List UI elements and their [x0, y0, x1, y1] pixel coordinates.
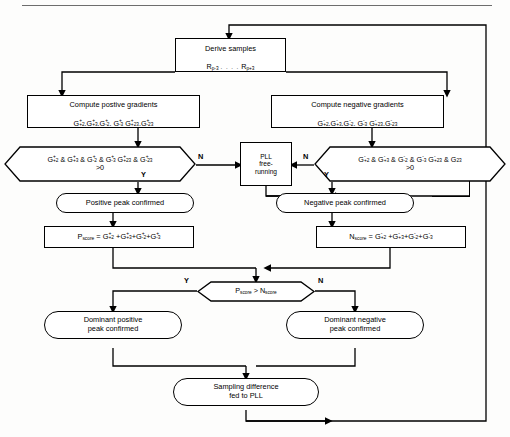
compare-label: Pscore > Nscore: [235, 287, 276, 296]
derive-r-last-sub: p+3: [246, 66, 254, 71]
derive-r-first-sub: p-3: [212, 66, 219, 71]
dominant-negative-text: Dominant negative peak confirmed: [320, 316, 390, 333]
node-sampling-difference[interactable]: Sampling difference fed to PLL: [173, 378, 319, 406]
derive-samples-line2: Rp-3 . . . . Rp+3: [206, 62, 254, 71]
n-score-sub: score: [355, 236, 367, 241]
pll-text: PLL free- running: [251, 153, 281, 176]
node-negative-peak-confirmed[interactable]: Negative peak confirmed: [276, 193, 414, 213]
pll-line3: running: [255, 168, 277, 175]
positive-test-yes-label: Y: [141, 170, 146, 179]
node-p-score[interactable]: Pscore = G++2 +G++3+G+-2+G+-3: [44, 226, 194, 248]
pos-grad-line1: Compute postive gradients: [70, 100, 158, 109]
node-dominant-negative-peak[interactable]: Dominant negative peak confirmed: [286, 311, 424, 339]
compare-no-label: N: [318, 276, 323, 285]
neg-grad-line2: G-+2.G-+3.G--2. G--3 G-+23.G--23: [318, 119, 398, 128]
derive-samples-line1: Derive samples: [205, 44, 256, 53]
sampling-text: Sampling difference fed to PLL: [209, 383, 282, 400]
dominant-positive-line2: peak confirmed: [88, 324, 139, 333]
pos-grad-line2: G++2.G++3.G+-2. G+-3 G++23.G+-23: [74, 119, 154, 128]
compare-p-sub: score: [240, 290, 252, 295]
dominant-positive-text: Dominant positive peak confirmed: [80, 316, 147, 333]
sampling-line2: fed to PLL: [229, 391, 263, 400]
derive-samples-text: Derive samples Rp-3 . . . . Rp+3: [201, 37, 260, 74]
derive-dots: . . . .: [221, 64, 240, 70]
pos-grad-text: Compute postive gradients G++2.G++3.G+-2…: [66, 93, 162, 130]
positive-test-no-label: N: [198, 152, 203, 161]
negative-test-text: G-+2 & G-+3 & G--2 & G--3 G-+23 & G23 >0: [314, 146, 506, 182]
neg-grad-line1: Compute negative gradients: [311, 100, 403, 109]
node-compute-positive-gradients[interactable]: Compute postive gradients G++2.G++3.G+-2…: [27, 95, 200, 128]
node-compute-negative-gradients[interactable]: Compute negative gradients G-+2.G-+3.G--…: [271, 95, 444, 128]
negative-test-no-label: N: [303, 152, 308, 161]
node-dominant-positive-peak[interactable]: Dominant positive peak confirmed: [44, 311, 182, 339]
node-positive-peak-confirmed[interactable]: Positive peak confirmed: [56, 193, 194, 213]
node-negative-gradient-test[interactable]: G-+2 & G-+3 & G--2 & G--3 G-+23 & G23 >0: [314, 146, 506, 182]
pll-feedback-rail-horizontal: [432, 196, 470, 197]
n-score-text: Nscore = G-+2 +G-+3+G--2+G--3: [345, 232, 437, 242]
positive-peak-label: Positive peak confirmed: [82, 199, 168, 208]
pll-line1: PLL: [260, 153, 272, 160]
negative-test-line2: >0: [406, 164, 414, 172]
node-positive-gradient-test[interactable]: G++2 & G++3 & G+-2 & G+-3 G++23 & G+-23 …: [4, 146, 196, 182]
compare-text: Pscore > Nscore: [197, 281, 315, 302]
node-compare-scores[interactable]: Pscore > Nscore: [197, 281, 315, 302]
positive-test-text: G++2 & G++3 & G+-2 & G+-3 G++23 & G+-23 …: [4, 146, 196, 182]
p-score-text: Pscore = G++2 +G++3+G+-2+G+-3: [73, 232, 164, 242]
compare-n-sub: score: [265, 290, 277, 295]
pll-line2: free-: [259, 160, 273, 167]
neg-grad-text: Compute negative gradients G-+2.G-+3.G--…: [307, 93, 407, 130]
negative-peak-label: Negative peak confirmed: [300, 199, 390, 208]
node-n-score[interactable]: Nscore = G-+2 +G-+3+G--2+G--3: [316, 226, 466, 248]
flowchart-canvas: Derive samples Rp-3 . . . . Rp+3 Compute…: [0, 0, 510, 437]
p-score-sub: score: [82, 236, 94, 241]
node-pll-free-running[interactable]: PLL free- running: [240, 142, 292, 186]
node-derive-samples[interactable]: Derive samples Rp-3 . . . . Rp+3: [175, 38, 286, 72]
dominant-negative-line2: peak confirmed: [330, 324, 381, 333]
positive-test-line2: >0: [96, 164, 104, 172]
negative-test-yes-label: Y: [324, 170, 329, 179]
compare-yes-label: Y: [184, 276, 189, 285]
